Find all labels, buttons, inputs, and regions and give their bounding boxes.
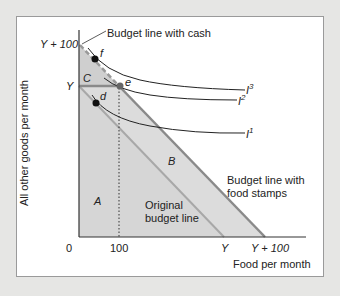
y-tick-y: Y bbox=[66, 80, 73, 93]
x-tick-0: 0 bbox=[66, 242, 72, 255]
x-tick-y: Y bbox=[221, 242, 228, 255]
original-line-label-2: budget line bbox=[145, 212, 199, 225]
curve-i1-label: I1 bbox=[246, 126, 254, 140]
stamps-line-label-1: Budget line with bbox=[227, 174, 305, 187]
stamps-line-label-2: food stamps bbox=[227, 187, 287, 200]
curve-i2-label: I2 bbox=[238, 93, 246, 107]
cash-label-leader bbox=[82, 31, 106, 44]
cash-line-label: Budget line with cash bbox=[107, 27, 211, 40]
x-axis-label: Food per month bbox=[233, 258, 311, 271]
region-a-label: A bbox=[94, 195, 101, 208]
curve-i3-label: I3 bbox=[246, 82, 254, 96]
point-e-label: e bbox=[125, 76, 131, 89]
point-d bbox=[93, 100, 100, 107]
y-axis-label: All other goods per month bbox=[18, 73, 30, 213]
x-tick-y-plus-100: Y + 100 bbox=[251, 242, 289, 255]
point-d-label: d bbox=[100, 90, 106, 103]
point-e bbox=[117, 83, 124, 90]
point-f bbox=[92, 56, 99, 63]
x-tick-100: 100 bbox=[110, 242, 128, 255]
point-f-label: f bbox=[100, 47, 103, 60]
y-tick-y-plus-100: Y + 100 bbox=[40, 38, 78, 51]
region-b-label: B bbox=[168, 155, 175, 168]
original-line-label-1: Original bbox=[145, 199, 183, 212]
region-c-label: C bbox=[83, 72, 91, 85]
